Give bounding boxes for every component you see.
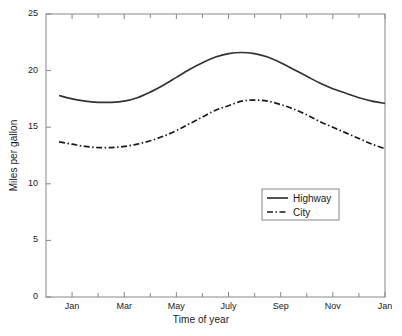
chart-legend: HighwayCity xyxy=(262,189,339,220)
mpg-line-chart: HighwayCity Time of year Miles per gallo… xyxy=(0,0,402,336)
y-tick-label: 5 xyxy=(12,234,38,244)
x-tick-label: July xyxy=(209,301,249,311)
y-axis-title: Miles per gallon xyxy=(8,96,19,216)
y-axis-ticks xyxy=(46,14,51,297)
x-tick-label: Jan xyxy=(52,301,92,311)
plot-canvas: HighwayCity xyxy=(0,0,402,336)
x-tick-label: Mar xyxy=(104,301,144,311)
x-tick-label: Nov xyxy=(313,301,353,311)
y-tick-label: 0 xyxy=(12,291,38,301)
y-tick-label: 15 xyxy=(12,121,38,131)
legend-label-city: City xyxy=(293,207,310,218)
x-axis-ticks xyxy=(72,14,385,297)
x-tick-label: May xyxy=(156,301,196,311)
legend-label-highway: Highway xyxy=(293,193,331,204)
series-lines xyxy=(59,52,385,148)
series-line-city xyxy=(59,100,385,149)
x-tick-label: Sep xyxy=(261,301,301,311)
y-tick-label: 25 xyxy=(12,8,38,18)
x-tick-label: Jan xyxy=(365,301,402,311)
y-tick-label: 10 xyxy=(12,178,38,188)
y-tick-label: 20 xyxy=(12,65,38,75)
x-axis-title: Time of year xyxy=(0,314,402,325)
series-line-highway xyxy=(59,52,385,103)
